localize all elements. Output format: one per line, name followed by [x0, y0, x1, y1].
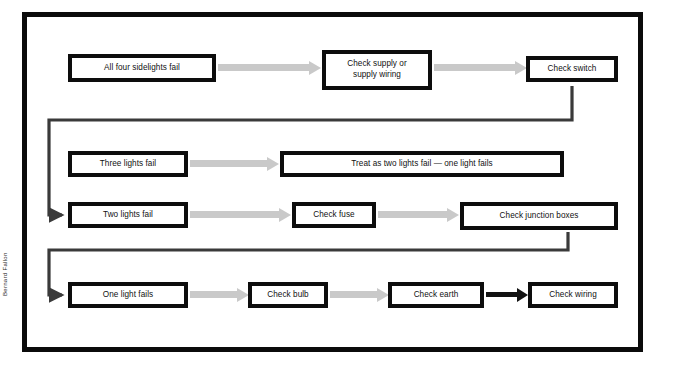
node-label: One light fails — [103, 290, 153, 301]
node-check-earth[interactable]: Check earth — [388, 282, 484, 308]
arrow-one-light-to-check-bulb — [190, 291, 238, 298]
node-label: Check fuse — [313, 210, 354, 221]
node-three-lights-fail[interactable]: Three lights fail — [68, 151, 188, 177]
node-check-bulb[interactable]: Check bulb — [248, 282, 328, 308]
arrow-check-fuse-to-check-junction-boxes — [378, 211, 448, 218]
node-label: Check bulb — [267, 290, 308, 301]
arrow-three-lights-to-treat-as-two — [190, 160, 268, 167]
node-check-supply-or-supply-wiring[interactable]: Check supply or supply wiring — [322, 50, 432, 90]
flowchart-page: All four sidelights fail Check supply or… — [0, 0, 673, 370]
node-label: All four sidelights fail — [104, 63, 180, 74]
node-label: Check earth — [414, 290, 459, 301]
illustrator-credit: Bernard Fallon — [2, 252, 8, 296]
arrow-all-four-to-check-supply — [218, 64, 310, 71]
node-label: Check junction boxes — [500, 211, 579, 222]
node-label: Three lights fail — [100, 159, 156, 170]
node-check-fuse[interactable]: Check fuse — [292, 202, 376, 228]
node-treat-as-two-lights-fail[interactable]: Treat as two lights fail — one light fai… — [280, 151, 564, 177]
node-label: Check switch — [548, 64, 597, 75]
arrow-check-earth-to-check-wiring — [486, 292, 518, 297]
arrow-check-supply-to-check-switch — [434, 64, 516, 71]
node-label: Two lights fail — [103, 210, 153, 221]
node-check-junction-boxes[interactable]: Check junction boxes — [460, 202, 618, 230]
node-label: Treat as two lights fail — one light fai… — [351, 159, 493, 170]
node-two-lights-fail[interactable]: Two lights fail — [68, 202, 188, 228]
node-label-line2: supply wiring — [353, 70, 401, 81]
node-all-four-sidelights-fail[interactable]: All four sidelights fail — [68, 54, 216, 82]
node-check-wiring[interactable]: Check wiring — [528, 282, 618, 308]
node-label: Check wiring — [549, 290, 596, 301]
arrow-check-bulb-to-check-earth — [330, 291, 378, 298]
arrow-two-lights-to-check-fuse — [190, 211, 280, 218]
node-check-switch[interactable]: Check switch — [526, 56, 618, 82]
node-label-line1: Check supply or — [347, 59, 406, 70]
node-one-light-fails[interactable]: One light fails — [68, 282, 188, 308]
